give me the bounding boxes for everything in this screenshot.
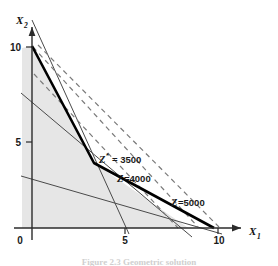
origin-label: 0 [17,235,23,246]
x-axis-title-subscript: 1 [257,232,261,241]
figure-caption: Figure 2.3 Geometric solution [0,257,278,266]
z-5000-value: =5000 [178,197,205,208]
z-5000-prefix: Z [170,197,178,208]
y-axis-title: X 2 [15,14,28,30]
x-axis-title: X 1 [248,225,261,241]
x-tick-label-5: 5 [122,235,128,246]
annotation-z-4000: Z =4000 [116,173,151,184]
y-tick-label-5: 5 [15,137,21,148]
annotation-z-optimal: Z * = 3500 [98,151,141,165]
y-tick-label-10: 10 [10,42,22,53]
x-tick-label-10: 10 [213,235,225,246]
y-axis-title-subscript: 2 [23,21,28,30]
z-optimal-prefix: Z [98,154,106,165]
x-axis-title-main: X [248,225,257,237]
z-4000-prefix: Z [116,173,124,184]
x-axis-arrow [232,225,241,232]
y-axis-arrow [29,27,36,36]
annotation-z-5000: Z =5000 [170,197,205,208]
y-axis-title-main: X [15,14,24,26]
z-optimal-value: = 3500 [112,154,141,165]
z-4000-value: =4000 [124,173,151,184]
